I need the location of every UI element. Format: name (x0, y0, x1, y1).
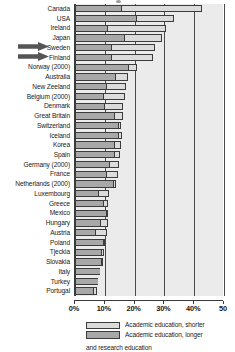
bar-segment-longer (75, 219, 100, 226)
category-label: France (50, 169, 70, 179)
bar-segment-shorter (107, 25, 167, 32)
bar-segment-shorter (136, 15, 174, 22)
value-axis: 0%10%20%30%40%50 (74, 300, 223, 314)
category-label: New Zeeland (32, 82, 70, 92)
bar-segment-shorter (114, 151, 120, 158)
bar-row (75, 4, 223, 14)
bar-row (75, 62, 223, 72)
bar-segment-longer (75, 229, 95, 236)
category-label: Italy (58, 267, 70, 277)
bar-row (75, 189, 223, 199)
bar-row (75, 82, 223, 92)
bar-segment-shorter (100, 219, 108, 226)
gridline-50 (224, 4, 225, 296)
bar-row (75, 228, 223, 238)
category-label: Canada (48, 4, 71, 14)
category-label: Denmark (44, 101, 70, 111)
bar-row (75, 111, 223, 121)
bar-row (75, 247, 223, 257)
category-label: Australia (45, 72, 70, 82)
bar-segment-shorter (111, 44, 155, 51)
plot-area (74, 4, 223, 296)
bar-segment-longer (75, 171, 106, 178)
category-label: Switzerland (37, 121, 70, 131)
legend-swatch-longer (86, 331, 120, 339)
bar-row (75, 238, 223, 248)
category-label: Greece (49, 199, 70, 209)
axis-tick-label: 50 (219, 304, 227, 313)
legend-label-continuation: and research education (86, 344, 152, 352)
bar-row (75, 160, 223, 170)
bar-segment-shorter (113, 180, 116, 187)
legend-item-longer: Academic education, longer (86, 331, 235, 339)
bar-row (75, 53, 223, 63)
top-decorative-mark (116, 0, 121, 3)
category-label: Hungary (46, 218, 70, 228)
bar-row (75, 208, 223, 218)
category-label: Iceland (49, 131, 70, 141)
bar-row (75, 131, 223, 141)
bar-row (75, 286, 223, 296)
bar-segment-longer (75, 44, 111, 51)
bar-segment-longer (75, 180, 113, 187)
bar-segment-longer (75, 83, 106, 90)
category-label: Great Britain (34, 111, 70, 121)
bar-row (75, 150, 223, 160)
bar-segment-longer (75, 200, 103, 207)
bar-segment-longer (75, 268, 100, 275)
bar-segment-longer (75, 287, 93, 294)
bar-row (75, 277, 223, 287)
category-label: Portugal (46, 286, 70, 296)
bar-row (75, 101, 223, 111)
bar-segment-shorter (103, 93, 125, 100)
legend-item-shorter: Academic education, shorter (86, 321, 235, 329)
category-label: Poland (50, 238, 70, 248)
bar-row (75, 43, 223, 53)
category-label: Slovakia (46, 257, 70, 267)
bar-segment-longer (75, 151, 114, 158)
bar-segment-longer (75, 64, 128, 71)
category-label: Finland (49, 53, 70, 63)
bar-segment-shorter (106, 210, 108, 217)
category-label: Luxembourg (34, 189, 70, 199)
bar-row (75, 121, 223, 131)
bar-segment-shorter (104, 103, 123, 110)
legend-label-shorter: Academic education, shorter (125, 321, 205, 329)
bar-segment-longer (75, 278, 98, 285)
axis-tick-label: 10% (97, 304, 111, 313)
category-label: Ireland (51, 23, 70, 33)
category-label: USA (57, 14, 70, 24)
bar-row (75, 199, 223, 209)
bar-segment-longer (75, 249, 101, 256)
category-label: Sweden (47, 43, 70, 53)
bar-row (75, 14, 223, 24)
bar-segment-longer (75, 93, 103, 100)
category-label: Korea (53, 140, 70, 150)
arrow-marker-sweden (18, 42, 50, 51)
bar-segment-longer (75, 122, 118, 129)
bar-segment-shorter (124, 34, 162, 41)
category-label: Belgium (2000) (27, 92, 70, 102)
bar-row (75, 267, 223, 277)
bar-segment-longer (75, 132, 118, 139)
arrow-marker-finland (18, 52, 50, 61)
legend-swatch-shorter (86, 322, 120, 330)
bar-segment-longer (75, 112, 114, 119)
category-label: Germany (2000) (23, 160, 70, 170)
bar-row (75, 92, 223, 102)
axis-tick-label: 30% (156, 304, 170, 313)
category-label: Mexico (50, 208, 70, 218)
bar-segment-shorter (111, 54, 154, 61)
category-label: Turkey (51, 277, 70, 287)
category-label: Spain (54, 150, 70, 160)
bar-segment-longer (75, 54, 111, 61)
bar-segment-longer (75, 5, 121, 12)
category-label: Norway (2000) (28, 62, 70, 72)
bar-chart: CanadaUSAIrelandJapanSwedenFinlandNorway… (0, 0, 235, 352)
bar-segment-longer (75, 239, 103, 246)
chart-legend: Academic education, shorter Academic edu… (86, 321, 235, 340)
bar-segment-longer (75, 103, 104, 110)
bar-segment-shorter (103, 200, 108, 207)
bar-segment-longer (75, 25, 107, 32)
bar-row (75, 257, 223, 267)
